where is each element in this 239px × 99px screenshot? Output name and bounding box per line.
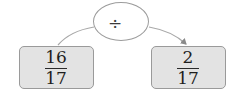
input-denominator: 17 bbox=[36, 70, 76, 87]
input-fraction: 16 17 bbox=[36, 49, 76, 87]
output-fraction: 2 17 bbox=[168, 49, 208, 87]
output-numerator: 2 bbox=[168, 49, 208, 66]
operation-diagram: ÷ 16 17 2 17 bbox=[0, 0, 239, 99]
input-numerator: 16 bbox=[36, 49, 76, 66]
input-connector bbox=[58, 27, 94, 45]
output-arrow bbox=[149, 27, 186, 44]
output-denominator: 17 bbox=[168, 70, 208, 87]
divide-icon: ÷ bbox=[103, 13, 127, 33]
